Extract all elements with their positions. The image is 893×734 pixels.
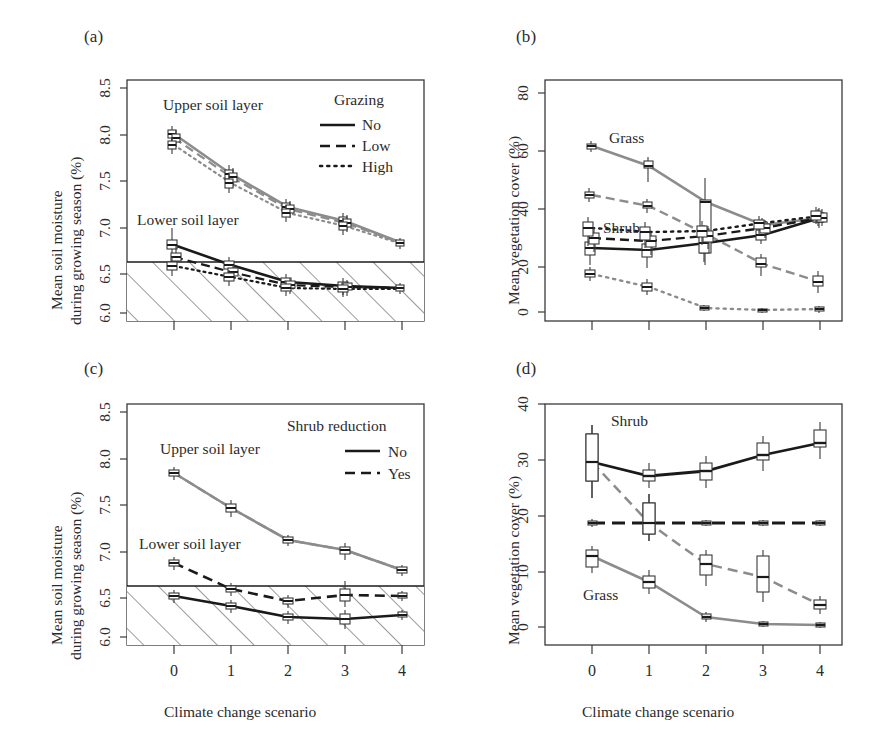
svg-text:8.0: 8.0 <box>96 125 113 145</box>
svg-text:2: 2 <box>702 662 710 679</box>
panel-d-annotation-shrub: Shrub <box>611 412 648 429</box>
panel-d-series-group <box>586 422 826 628</box>
panel-c-annotation-upper: Upper soil layer <box>160 440 261 457</box>
panel-a-legend-title: Grazing <box>334 91 384 108</box>
panel-a: (a) Mean soil moisture during growing se… <box>0 0 450 370</box>
panel-b-y-axis <box>538 93 545 312</box>
panel-b-annotation-shrub: Shrub <box>603 219 640 236</box>
panel-d-y-ticklabels: 40 30 20 10 0 <box>514 396 531 631</box>
panel-b-x-axis <box>592 321 820 330</box>
svg-text:8.0: 8.0 <box>96 449 113 469</box>
svg-text:40: 40 <box>514 396 531 412</box>
panel-d-boxplots <box>586 422 826 628</box>
panel-a-annotation-upper: Upper soil layer <box>163 96 264 113</box>
panel-a-legend: Grazing No Low High <box>320 91 393 175</box>
svg-text:0: 0 <box>170 662 178 679</box>
panel-d-y-axis <box>538 404 545 627</box>
panel-a-x-axis <box>174 321 402 330</box>
panel-a-legend-label-low: Low <box>362 137 391 154</box>
svg-text:0: 0 <box>514 623 531 631</box>
panel-c-legend-title: Shrub reduction <box>287 417 387 434</box>
panel-c: (c) Mean soil moisture during growing se… <box>0 355 450 734</box>
panel-b-plot: 80 60 40 20 0 <box>443 0 893 370</box>
svg-text:6.0: 6.0 <box>96 303 113 323</box>
panel-d-plot: 40 30 20 10 0 0 1 2 3 4 <box>443 355 893 734</box>
svg-text:4: 4 <box>398 662 406 679</box>
figure-root: (a) Mean soil moisture during growing se… <box>0 0 893 734</box>
panel-c-plot: 8.5 8.0 7.5 7.0 6.5 6.0 0 1 <box>0 355 450 734</box>
panel-a-annotation-lower: Lower soil layer <box>137 211 239 228</box>
panel-a-legend-label-no: No <box>362 116 381 133</box>
svg-text:0: 0 <box>514 308 531 316</box>
panel-c-legend: Shrub reduction No Yes <box>287 417 411 482</box>
svg-text:1: 1 <box>227 662 235 679</box>
svg-text:3: 3 <box>341 662 349 679</box>
panel-a-legend-label-high: High <box>362 158 393 175</box>
svg-text:6.5: 6.5 <box>96 588 113 608</box>
panel-b-annotation-grass: Grass <box>609 129 644 146</box>
panel-a-y-axis <box>120 88 127 313</box>
panel-c-legend-label-no: No <box>388 443 407 460</box>
svg-text:7.0: 7.0 <box>96 218 113 238</box>
panel-d: (d) Mean vegetation cover (%) Climate ch… <box>443 355 893 734</box>
svg-text:7.0: 7.0 <box>96 542 113 562</box>
panel-d-annotation-grass: Grass <box>583 586 618 603</box>
svg-text:30: 30 <box>514 452 531 468</box>
panel-c-x-ticklabels: 0 1 2 3 4 <box>170 662 406 679</box>
svg-text:1: 1 <box>645 662 653 679</box>
svg-text:4: 4 <box>816 662 824 679</box>
svg-text:20: 20 <box>514 259 531 275</box>
svg-text:6.5: 6.5 <box>96 264 113 284</box>
series-line-grass-high <box>592 274 820 310</box>
svg-text:0: 0 <box>588 662 596 679</box>
svg-text:7.5: 7.5 <box>96 171 113 191</box>
svg-text:6.0: 6.0 <box>96 627 113 647</box>
svg-text:10: 10 <box>514 564 531 580</box>
svg-text:7.5: 7.5 <box>96 495 113 515</box>
panel-d-x-ticklabels: 0 1 2 3 4 <box>588 662 824 679</box>
svg-text:8.5: 8.5 <box>96 78 113 98</box>
svg-text:80: 80 <box>514 85 531 101</box>
svg-text:8.5: 8.5 <box>96 402 113 422</box>
panel-b-y-ticklabels: 80 60 40 20 0 <box>514 85 531 316</box>
panel-a-plot: 8.5 8.0 7.5 7.0 6.5 6.0 <box>0 0 450 370</box>
panel-c-y-axis <box>120 412 127 637</box>
panel-c-legend-label-yes: Yes <box>388 465 411 482</box>
svg-text:60: 60 <box>514 143 531 159</box>
panel-d-x-axis <box>592 645 820 654</box>
panel-c-y-ticklabels: 8.5 8.0 7.5 7.0 6.5 6.0 <box>96 402 113 647</box>
svg-text:20: 20 <box>514 508 531 524</box>
panel-b: (b) Mean vegetation cover (%) 80 60 40 2… <box>443 0 893 370</box>
svg-text:3: 3 <box>759 662 767 679</box>
svg-text:40: 40 <box>514 201 531 217</box>
panel-c-x-axis <box>174 645 402 654</box>
series-line-c-upper-no <box>174 473 402 570</box>
panel-a-y-ticklabels: 8.5 8.0 7.5 7.0 6.5 6.0 <box>96 78 113 323</box>
panel-c-annotation-lower: Lower soil layer <box>139 535 241 552</box>
series-line-c-upper-yes <box>174 473 402 570</box>
svg-text:2: 2 <box>284 662 292 679</box>
